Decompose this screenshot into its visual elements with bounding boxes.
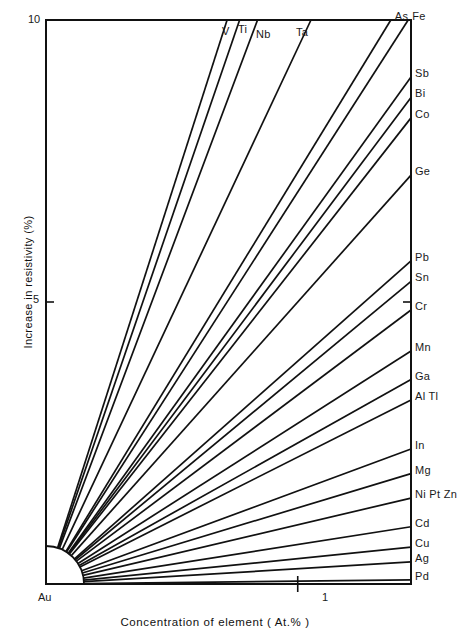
series-line-ge bbox=[71, 175, 411, 556]
series-line-al-tl bbox=[80, 400, 411, 567]
series-label-ni-pt-zn: Ni Pt Zn bbox=[415, 489, 457, 500]
series-label-ga: Ga bbox=[415, 371, 430, 382]
series-label-v: V bbox=[222, 26, 230, 37]
x-axis-label: Concentration of element ( At.% ) bbox=[0, 616, 430, 628]
origin-arc bbox=[46, 546, 84, 584]
y-axis-label: Increase in resistivity (%) bbox=[22, 202, 34, 362]
series-label-co: Co bbox=[415, 109, 430, 120]
series-label-pb: Pb bbox=[415, 252, 429, 263]
series-label-al-tl: Al Tl bbox=[415, 391, 438, 402]
y-tick-label-5: 5 bbox=[33, 294, 39, 305]
series-label-ti: Ti bbox=[238, 24, 247, 35]
series-label-fe: Fe bbox=[412, 11, 425, 22]
series-line-v bbox=[58, 20, 227, 548]
series-label-ta: Ta bbox=[296, 27, 308, 38]
series-label-cu: Cu bbox=[415, 538, 430, 549]
series-line-pb bbox=[74, 261, 411, 559]
y-tick-label-10: 10 bbox=[28, 14, 40, 25]
series-label-mn: Mn bbox=[415, 342, 431, 353]
series-label-pd: Pd bbox=[415, 571, 429, 582]
series-label-ge: Ge bbox=[415, 166, 430, 177]
series-line-sn bbox=[75, 281, 411, 559]
series-label-sn: Sn bbox=[415, 272, 429, 283]
series-label-cr: Cr bbox=[415, 301, 427, 312]
series-line-ag bbox=[84, 562, 411, 582]
series-line-nb bbox=[59, 20, 257, 548]
series-line-fe bbox=[67, 20, 409, 552]
series-label-sb: Sb bbox=[415, 68, 429, 79]
series-line-bi bbox=[69, 97, 411, 553]
series-label-bi: Bi bbox=[415, 88, 425, 99]
series-label-cd: Cd bbox=[415, 518, 430, 529]
series-label-as: As bbox=[395, 11, 408, 22]
series-label-ag: Ag bbox=[415, 553, 429, 564]
series-line-sb bbox=[68, 77, 411, 553]
series-label-mg: Mg bbox=[415, 465, 431, 476]
series-label-in: In bbox=[415, 440, 425, 451]
x-origin-label-au: Au bbox=[38, 592, 51, 603]
series-label-nb: Nb bbox=[256, 29, 271, 40]
x-tick-label-1: 1 bbox=[322, 592, 328, 603]
